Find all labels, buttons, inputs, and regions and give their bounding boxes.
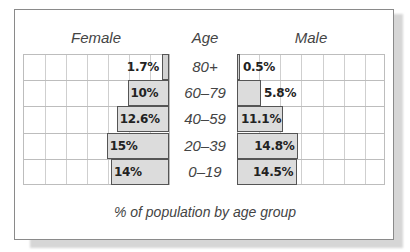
grid-vline xyxy=(323,55,324,184)
male-value-label: 14.5% xyxy=(253,159,293,185)
age-label: 60–79 xyxy=(184,80,226,106)
female-value-label: 12.6% xyxy=(120,106,160,132)
chart-caption: % of population by age group xyxy=(114,204,296,220)
grid-vline xyxy=(66,55,67,184)
grid-vline xyxy=(45,55,46,184)
female-value-label: 14% xyxy=(114,159,142,185)
age-label: 20–39 xyxy=(184,133,226,159)
age-label: 80+ xyxy=(192,54,217,80)
grid-vline xyxy=(344,55,345,184)
grid-vline xyxy=(108,55,109,184)
female-bar xyxy=(162,54,169,80)
female-header: Female xyxy=(71,29,121,46)
grid-vline xyxy=(301,55,302,184)
age-header: Age xyxy=(192,29,219,46)
male-bar xyxy=(237,80,261,106)
age-label: 0–19 xyxy=(188,159,221,185)
grid-vline xyxy=(87,55,88,184)
male-value-label: 11.1% xyxy=(241,106,281,132)
age-label: 40–59 xyxy=(184,106,226,132)
male-header: Male xyxy=(295,29,328,46)
grid-vline xyxy=(365,55,366,184)
male-value-label: 0.5% xyxy=(243,54,275,80)
female-value-label: 10% xyxy=(131,80,159,106)
female-value-label: 15% xyxy=(110,133,138,159)
male-value-label: 5.8% xyxy=(264,80,296,106)
female-value-label: 1.7% xyxy=(127,54,159,80)
male-bar xyxy=(237,54,240,80)
male-value-label: 14.8% xyxy=(254,133,294,159)
